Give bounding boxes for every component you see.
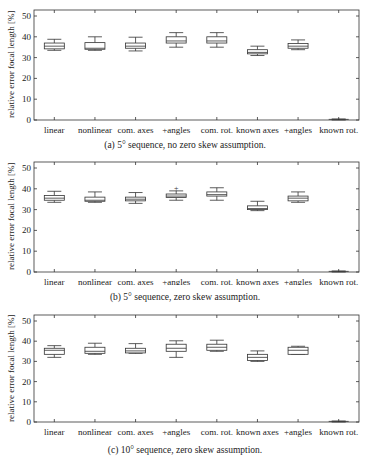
x-tick-label: nonlinear	[78, 125, 112, 135]
x-tick-label: +angles	[284, 125, 313, 135]
plot-frame	[34, 10, 359, 120]
box-2	[126, 37, 146, 51]
caption-a: (a) 5° sequence, no zero skew assumption…	[0, 140, 370, 150]
y-tick-label: 30	[22, 356, 32, 366]
y-tick-label: 40	[22, 184, 32, 194]
box-3	[166, 341, 186, 358]
y-tick-label: 40	[22, 32, 32, 42]
boxplot-c: 01020304050linearnonlinearcom. axes+angl…	[0, 305, 370, 440]
x-tick-label: linear	[44, 427, 65, 437]
y-tick-label: 20	[22, 73, 32, 83]
box-0	[44, 39, 64, 50]
box-2	[126, 344, 146, 354]
x-tick-label: com. axes	[118, 277, 154, 285]
box-6	[288, 346, 308, 354]
box-5	[247, 46, 267, 55]
y-tick-label: 40	[22, 336, 32, 346]
outlier-marker: +	[174, 184, 179, 193]
plot-frame	[34, 162, 359, 272]
box-6	[288, 192, 308, 202]
x-tick-label: +angles	[284, 277, 313, 285]
y-tick-label: 0	[27, 115, 32, 125]
x-tick-label: linear	[44, 277, 65, 285]
box-0	[44, 191, 64, 202]
x-tick-label: nonlinear	[78, 277, 112, 285]
box-7	[329, 119, 349, 120]
caption-b: (b) 5° sequence, zero skew assumption.	[0, 292, 370, 302]
chart-panel-c: 01020304050linearnonlinearcom. axes+angl…	[0, 305, 370, 463]
boxplot-a: 01020304050linearnonlinearcom. axes+angl…	[0, 0, 370, 135]
y-axis-label: relative error focal length [%]	[6, 315, 16, 422]
y-tick-label: 30	[22, 205, 32, 215]
chart-panel-a: 01020304050linearnonlinearcom. axes+angl…	[0, 0, 370, 155]
y-axis-label: relative error focal length [%]	[6, 163, 16, 270]
y-tick-label: 10	[22, 397, 32, 407]
y-tick-label: 10	[22, 94, 32, 104]
box-1	[85, 37, 105, 51]
box-4	[207, 340, 227, 351]
box-1	[85, 192, 105, 202]
y-tick-label: 50	[22, 163, 32, 173]
x-tick-label: com. rot.	[201, 427, 233, 437]
x-tick-label: +angles	[162, 125, 191, 135]
caption-c: (c) 10° sequence, zero skew assumption.	[0, 445, 370, 455]
y-tick-label: 50	[22, 316, 32, 326]
box-6	[288, 40, 308, 50]
x-tick-label: known rot.	[319, 277, 358, 285]
box-4	[207, 188, 227, 200]
x-tick-label: com. axes	[118, 427, 154, 437]
chart-panel-b: 01020304050linearnonlinearcom. axes+angl…	[0, 150, 370, 305]
y-tick-label: 50	[22, 11, 32, 21]
box-7	[329, 271, 349, 272]
x-tick-label: com. rot.	[201, 125, 233, 135]
boxplot-b: 01020304050linearnonlinearcom. axes+angl…	[0, 150, 370, 285]
y-tick-label: 0	[27, 267, 32, 277]
plot-frame	[34, 315, 359, 422]
box-5	[247, 201, 267, 210]
x-tick-label: known axes	[236, 427, 279, 437]
box-4	[207, 33, 227, 48]
x-tick-label: nonlinear	[78, 427, 112, 437]
y-tick-label: 30	[22, 53, 32, 63]
y-tick-label: 20	[22, 377, 32, 387]
box-3	[166, 33, 186, 48]
x-tick-label: linear	[44, 125, 65, 135]
box-5	[247, 351, 267, 362]
y-tick-label: 10	[22, 246, 32, 256]
box-7	[329, 421, 349, 422]
x-tick-label: known axes	[236, 125, 279, 135]
x-tick-label: known rot.	[319, 427, 358, 437]
x-tick-label: +angles	[162, 427, 191, 437]
y-tick-label: 20	[22, 225, 32, 235]
box-2	[126, 193, 146, 204]
box-1	[85, 343, 105, 354]
box-3: +	[166, 184, 186, 200]
y-axis-label: relative error focal length [%]	[6, 11, 16, 118]
x-tick-label: known axes	[236, 277, 279, 285]
x-tick-label: +angles	[162, 277, 191, 285]
x-tick-label: com. axes	[118, 125, 154, 135]
x-tick-label: known rot.	[319, 125, 358, 135]
x-tick-label: +angles	[284, 427, 313, 437]
y-tick-label: 0	[27, 417, 32, 427]
box-0	[44, 346, 64, 358]
x-tick-label: com. rot.	[201, 277, 233, 285]
